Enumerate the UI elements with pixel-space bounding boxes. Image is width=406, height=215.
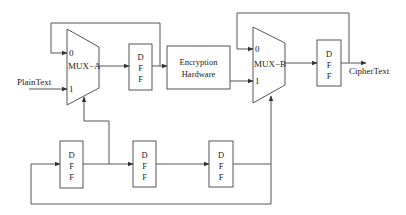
mux-a-label: MUX−A: [68, 61, 101, 71]
enc-label-2: Hardware: [182, 69, 216, 79]
dff-b-d: D: [326, 49, 332, 59]
encryption-hardware-block: Encryption Hardware: [167, 46, 230, 89]
dff-ctrl-2-f1: F: [142, 161, 147, 171]
dff-b: D F F: [317, 40, 341, 86]
dff-ctrl-2: D F F: [133, 141, 156, 187]
dff-ctrl-1: D F F: [60, 141, 83, 188]
dff-ctrl-3: D F F: [209, 141, 233, 187]
mux-b: MUX−B 0 1: [253, 27, 286, 103]
dff-b-f1: F: [327, 60, 332, 70]
ciphertext-label: CipherText: [349, 66, 390, 76]
circuit-diagram: MUX−A 0 1 D F F Encryption Hardware MUX−…: [0, 0, 406, 215]
dff-ctrl-2-f2: F: [142, 172, 147, 182]
dff-ctrl-3-f2: F: [219, 172, 224, 182]
dff-ctrl-3-f1: F: [219, 161, 224, 171]
dff-b-f2: F: [327, 71, 332, 81]
wire-select-a: [84, 97, 109, 164]
dff-a-d: D: [137, 52, 143, 62]
dff-ctrl-2-d: D: [141, 150, 147, 160]
mux-a: MUX−A 0 1: [67, 29, 101, 105]
dff-a-f1: F: [138, 63, 143, 73]
dff-a: D F F: [129, 44, 152, 90]
mux-b-label: MUX−B: [254, 59, 286, 69]
dff-ctrl-1-f1: F: [69, 161, 74, 171]
mux-b-in0-label: 0: [255, 44, 260, 54]
enc-label-1: Encryption: [180, 57, 219, 67]
dff-ctrl-3-d: D: [218, 150, 224, 160]
plaintext-label: PlainText: [17, 77, 52, 87]
mux-b-in1-label: 1: [255, 76, 260, 86]
mux-a-in0-label: 0: [69, 48, 74, 58]
dff-ctrl-1-f2: F: [69, 172, 74, 182]
mux-a-in1-label: 1: [69, 84, 74, 94]
dff-ctrl-1-d: D: [68, 150, 74, 160]
dff-a-f2: F: [138, 74, 143, 84]
